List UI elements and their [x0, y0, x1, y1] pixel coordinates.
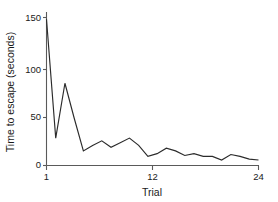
escape-time-line-chart: Time to escape (seconds) 150 100 50 0 1 …	[0, 0, 278, 202]
y-tick-label-50: 50	[30, 111, 41, 122]
escape-time-series-line	[47, 19, 259, 160]
y-tick-label-0: 0	[36, 159, 41, 170]
chart-figure: Time to escape (seconds) 150 100 50 0 1 …	[0, 0, 278, 202]
x-tick-label-24: 24	[253, 171, 264, 182]
y-tick-label-150: 150	[25, 12, 41, 23]
y-axis-title: Time to escape (seconds)	[4, 32, 16, 152]
x-tick-label-12: 12	[147, 171, 158, 182]
y-tick-label-100: 100	[25, 64, 41, 75]
x-tick-label-1: 1	[44, 171, 49, 182]
x-axis-title: Trial	[142, 186, 162, 198]
